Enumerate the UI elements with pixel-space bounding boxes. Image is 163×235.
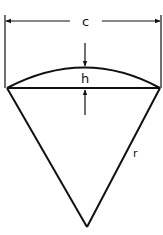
radius-line-right [87, 88, 160, 227]
chord-label: c [82, 14, 89, 29]
radius-line-left [7, 88, 87, 227]
segment-diagram: c h r [0, 0, 163, 235]
height-label: h [81, 71, 89, 86]
radius-label: r [133, 147, 138, 160]
